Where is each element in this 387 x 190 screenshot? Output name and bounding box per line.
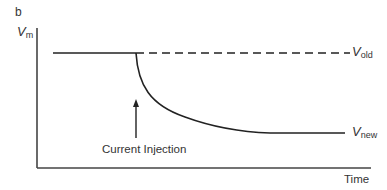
v-new-decay-curve: [136, 53, 345, 133]
panel-label: b: [15, 5, 22, 19]
membrane-potential-diagram: b Vm Vold Vnew Current Injection Time: [0, 0, 387, 190]
diagram-svg: [0, 0, 387, 190]
y-axis-label: Vm: [17, 24, 33, 40]
v-new-symbol: V: [352, 124, 361, 139]
x-axis-label: Time: [344, 173, 369, 185]
current-injection-label: Current Injection: [102, 143, 186, 155]
v-old-symbol: V: [352, 44, 361, 59]
v-old-subscript: old: [361, 50, 373, 60]
y-axis-subscript: m: [26, 30, 34, 40]
arrow-head-icon: [133, 99, 139, 107]
v-new-label: Vnew: [352, 124, 377, 140]
v-old-label: Vold: [352, 44, 373, 60]
v-new-subscript: new: [361, 130, 378, 140]
y-axis-symbol: V: [17, 24, 26, 39]
